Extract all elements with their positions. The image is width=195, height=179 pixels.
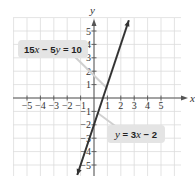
x-tick-label: 1 — [105, 100, 110, 111]
y-axis-arrow-icon — [92, 19, 97, 26]
line-arrow-up-icon — [124, 20, 129, 27]
y-axis-label: y — [89, 4, 95, 16]
eq1-rhs: = 10 — [60, 44, 81, 55]
x-tick-label: 4 — [145, 100, 150, 111]
x-tick-label: 5 — [159, 100, 164, 111]
eq2-rhs: − 2 — [141, 129, 157, 140]
x-tick-label: 2 — [118, 100, 123, 111]
x-tick-label: −4 — [35, 100, 46, 111]
x-axis-label: x — [189, 92, 195, 104]
eq2-mid: = 3 — [120, 129, 136, 140]
linear-equation-graph: −5−4−3−2−11234554321−1−2−3−4−5xy — [0, 0, 195, 179]
y-tick-label: 5 — [86, 26, 91, 37]
x-axis-arrow-icon — [181, 96, 188, 101]
eq1-mid: − 5 — [39, 44, 55, 55]
equation-callout-slope-intercept: y = 3x − 2 — [107, 125, 165, 143]
eq1-coef: 15 — [24, 44, 35, 55]
y-tick-label: −1 — [80, 106, 91, 117]
x-tick-label: −2 — [62, 100, 73, 111]
y-tick-label: −2 — [80, 119, 91, 130]
y-tick-label: 1 — [86, 79, 91, 90]
x-tick-label: 3 — [132, 100, 137, 111]
x-tick-label: −5 — [22, 100, 33, 111]
equation-callout-standard-form: 15x − 5y = 10 — [18, 40, 88, 58]
x-tick-label: −3 — [48, 100, 59, 111]
